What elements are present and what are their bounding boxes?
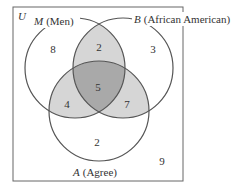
region-a-only: 2 <box>94 136 100 148</box>
region-m-only: 8 <box>50 43 56 55</box>
set-label-b: B(African American) <box>134 13 230 26</box>
region-b-a-only: 7 <box>124 98 130 110</box>
region-m-a-only: 4 <box>64 98 70 110</box>
set-name-a: (Agree) <box>83 166 118 179</box>
set-letter-a: A <box>72 166 80 178</box>
set-label-m: M(Men) <box>33 15 74 28</box>
set-letter-m: M <box>33 15 44 27</box>
set-name-m: (Men) <box>46 15 74 28</box>
universe-label: U <box>18 10 27 22</box>
region-outside: 9 <box>159 155 165 167</box>
set-label-a: A(Agree) <box>72 166 117 179</box>
set-name-b: (African American) <box>144 13 231 26</box>
set-letter-b: B <box>134 13 141 25</box>
region-m-b-only: 2 <box>96 41 102 53</box>
region-b-only: 3 <box>150 43 156 55</box>
venn-diagram: U M(Men) B(African American) A(Agree) 8 … <box>0 0 234 191</box>
region-m-b-a: 5 <box>95 81 101 93</box>
